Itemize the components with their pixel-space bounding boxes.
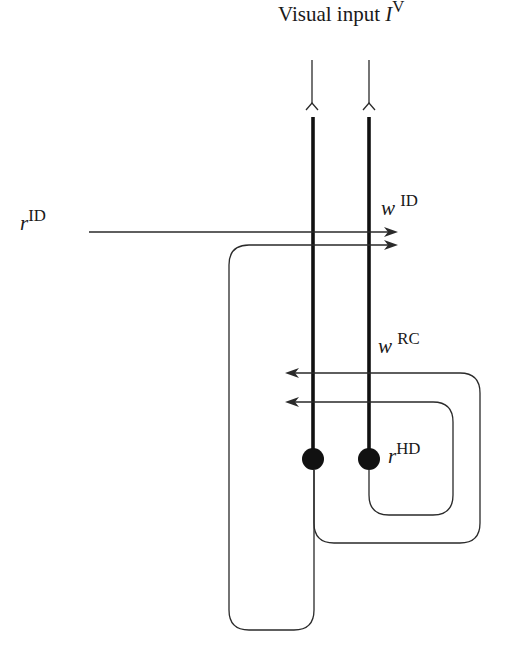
r-hd-symbol: r	[388, 444, 396, 468]
synapse-chevron-left	[306, 103, 318, 110]
network-diagram	[0, 0, 505, 650]
left-neuron	[302, 448, 324, 470]
visual-input-label: Visual input IV	[278, 4, 404, 25]
r-hd-superscript: HD	[396, 439, 420, 458]
r-id-superscript: ID	[28, 206, 46, 225]
w-id-superscript: ID	[400, 191, 418, 210]
w-id-symbol: w	[381, 196, 395, 220]
title-superscript: V	[392, 0, 404, 16]
w-id-label: w ID	[381, 198, 418, 219]
w-rc-symbol: w	[378, 334, 392, 358]
r-id-symbol: r	[20, 211, 28, 235]
synapse-chevron-right	[363, 103, 375, 110]
title-text: Visual input	[278, 2, 385, 26]
r-id-label: rID	[20, 213, 46, 234]
dendrites	[313, 117, 369, 450]
rid-input-arrow	[89, 227, 398, 237]
w-rc-superscript: RC	[397, 329, 419, 348]
visual-input-lines	[306, 60, 375, 110]
r-hd-label: rHD	[388, 446, 420, 467]
right-neuron	[358, 448, 380, 470]
w-rc-label: w RC	[378, 336, 420, 357]
